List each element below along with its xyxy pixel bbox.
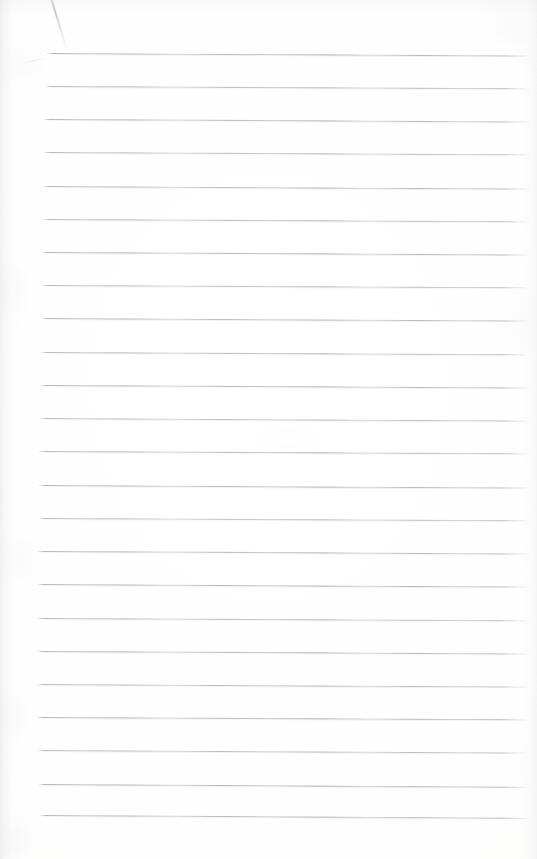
rule-line xyxy=(40,318,530,322)
rule-line xyxy=(36,684,529,688)
rule-line xyxy=(43,119,531,123)
ruled-lines xyxy=(0,0,537,859)
notebook-page xyxy=(0,0,537,859)
rule-line xyxy=(41,285,530,288)
rule-line xyxy=(43,152,531,155)
rule-line xyxy=(39,815,531,819)
rule-line xyxy=(36,717,529,720)
rule-line xyxy=(38,518,530,521)
rule-line xyxy=(42,219,530,222)
rule-line xyxy=(37,750,529,754)
rule-line xyxy=(37,618,529,621)
rule-line xyxy=(37,584,529,588)
rule-line xyxy=(37,551,530,555)
rule-line xyxy=(40,352,530,355)
rule-line xyxy=(39,385,530,389)
rule-line xyxy=(42,186,531,190)
rule-line xyxy=(44,86,531,89)
rule-line xyxy=(38,451,530,454)
rule-line xyxy=(46,53,532,57)
rule-line xyxy=(41,252,530,256)
rule-line xyxy=(38,784,530,788)
rule-line xyxy=(38,485,530,489)
rule-line xyxy=(36,651,529,655)
rule-line xyxy=(39,418,530,422)
